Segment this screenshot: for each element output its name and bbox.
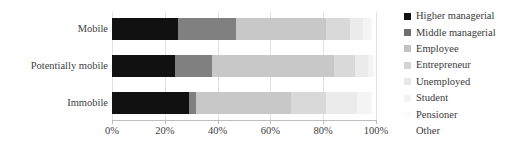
chart-legend: Higher managerialMiddle managerialEmploy… <box>404 8 526 139</box>
bar-segment <box>178 18 236 40</box>
bar-segment <box>373 18 376 40</box>
bar-segment <box>112 55 175 77</box>
legend-swatch-icon <box>404 13 411 20</box>
bar-row <box>112 55 376 77</box>
legend-swatch-icon <box>404 127 411 134</box>
legend-label: Other <box>416 125 440 137</box>
legend-label: Unemployed <box>416 76 470 88</box>
legend-item[interactable]: Employee <box>404 41 526 57</box>
y-axis-label-immobile: Immobile <box>0 97 108 109</box>
bar-segment <box>363 18 371 40</box>
bar-segment <box>189 92 197 114</box>
x-tick-label-4: 80% <box>293 124 353 138</box>
bar-segment <box>112 18 178 40</box>
legend-label: Pensioner <box>416 109 457 121</box>
bar-segment <box>373 92 376 114</box>
x-tick-label-2: 40% <box>188 124 248 138</box>
legend-item[interactable]: Unemployed <box>404 74 526 90</box>
stacked-bar-chart: Mobile Potentially mobile Immobile 0%20%… <box>0 0 526 147</box>
bar-row <box>112 92 376 114</box>
bar-segment <box>334 55 355 77</box>
bar-segment <box>326 18 350 40</box>
bar-row <box>112 18 376 40</box>
bar-segment <box>291 92 325 114</box>
x-tick-label-1: 20% <box>135 124 195 138</box>
y-axis-label-mobile: Mobile <box>0 23 108 35</box>
legend-label: Entrepreneur <box>416 59 471 71</box>
bar-segment <box>175 55 212 77</box>
legend-label: Student <box>416 92 448 104</box>
gridline-100pct <box>376 12 377 120</box>
legend-item[interactable]: Student <box>404 90 526 106</box>
legend-item[interactable]: Middle managerial <box>404 24 526 40</box>
legend-swatch-icon <box>404 95 411 102</box>
legend-swatch-icon <box>404 29 411 36</box>
x-axis-line <box>112 120 377 121</box>
bar-segment <box>350 18 363 40</box>
bar-segment <box>112 92 189 114</box>
y-axis-label-potentially-mobile: Potentially mobile <box>0 60 108 72</box>
legend-label: Employee <box>416 43 459 55</box>
bar-segment <box>326 92 358 114</box>
bar-segment <box>357 92 370 114</box>
y-axis-labels: Mobile Potentially mobile Immobile <box>0 12 108 120</box>
legend-swatch-icon <box>404 78 411 85</box>
legend-item[interactable]: Higher managerial <box>404 8 526 24</box>
bar-segment <box>236 18 326 40</box>
legend-item[interactable]: Pensioner <box>404 106 526 122</box>
bar-segment <box>355 55 368 77</box>
legend-item[interactable]: Other <box>404 123 526 139</box>
legend-item[interactable]: Entrepreneur <box>404 57 526 73</box>
bar-segment <box>373 55 376 77</box>
x-tick-label-3: 60% <box>240 124 300 138</box>
plot-area <box>112 12 376 120</box>
bar-segment <box>212 55 333 77</box>
bar-segment <box>196 92 291 114</box>
legend-swatch-icon <box>404 45 411 52</box>
legend-swatch-icon <box>404 111 411 118</box>
legend-swatch-icon <box>404 62 411 69</box>
x-tick-label-0: 0% <box>82 124 142 138</box>
legend-label: Middle managerial <box>416 27 496 39</box>
legend-label: Higher managerial <box>416 10 494 22</box>
x-tick-label-5: 100% <box>346 124 406 138</box>
